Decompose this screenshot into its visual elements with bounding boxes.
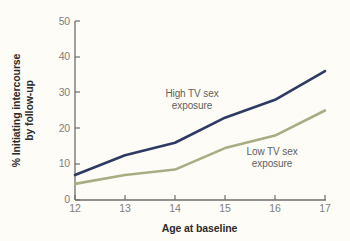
plot-area [0,0,350,241]
chart-figure: % Initiating intercourse by follow-up 50… [0,0,350,241]
annotation-low-line-2: exposure [232,158,312,170]
x-axis-ticks [75,195,325,200]
annotation-high-line-1: High TV sex [152,88,232,100]
annotation-low-tv-sex-exposure: Low TV sex exposure [232,146,312,170]
x-axis-label: Age at baseline [72,222,327,234]
annotation-low-line-1: Low TV sex [232,146,312,158]
annotation-high-tv-sex-exposure: High TV sex exposure [152,88,232,112]
annotation-high-line-2: exposure [152,100,232,112]
